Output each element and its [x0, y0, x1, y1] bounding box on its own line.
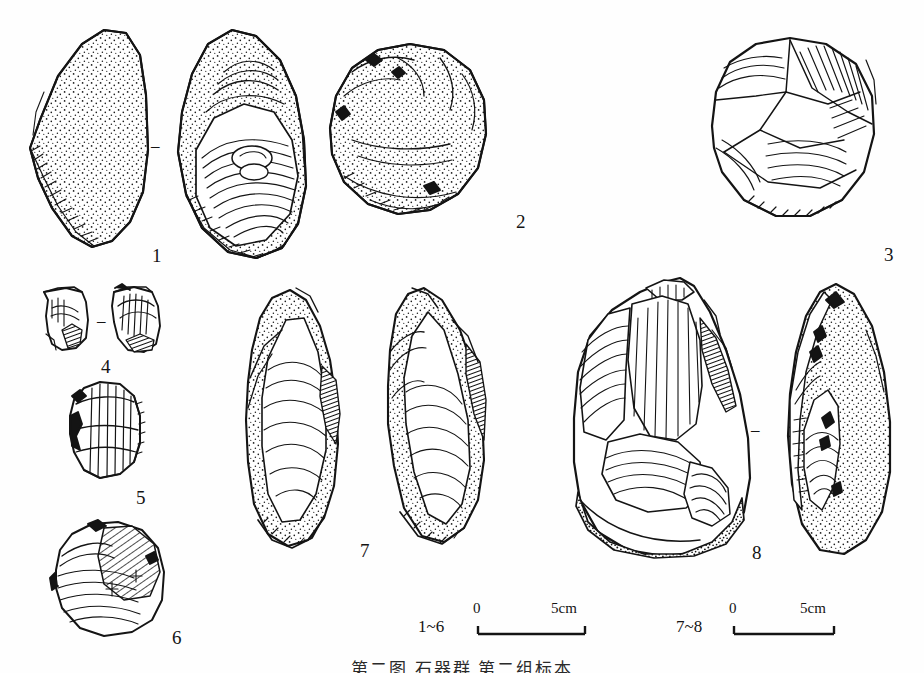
figure-number-7: 7: [360, 541, 370, 560]
artifact-7-view-a: [246, 288, 340, 548]
clipped-caption-text: 第二图 石器群 第二组标本: [0, 658, 924, 673]
figure-number-8: 8: [752, 543, 762, 562]
scale-1-6-range: 1~6: [418, 617, 444, 637]
artifact-5: [70, 382, 145, 478]
clipped-header-text: ···················: [0, 0, 924, 9]
artifact-8-view-b: [788, 284, 890, 554]
figure-number-3: 3: [884, 245, 894, 264]
artifact-3: [712, 38, 876, 216]
artifact-4-view-a: [44, 287, 88, 350]
figure-number-6: 6: [172, 628, 182, 647]
scale-1-6-zero: 0: [473, 600, 481, 617]
artifact-drawings: [0, 0, 924, 673]
artifact-7-view-b: [388, 288, 486, 544]
scale-7-8-max: 5cm: [800, 600, 826, 617]
view-separator-artifact-4: –: [97, 311, 106, 331]
scale-7-8-zero: 0: [729, 600, 737, 617]
artifact-6: [50, 520, 164, 636]
clipped-header-glyphs: ···················: [0, 0, 924, 7]
figure-number-5: 5: [136, 488, 146, 507]
artifact-2: [330, 44, 486, 214]
view-separator-artifact-8: –: [751, 420, 760, 440]
view-separator-artifact-1: –: [151, 136, 160, 156]
clipped-caption-glyphs: 第二图 石器群 第二组标本: [0, 658, 924, 673]
figure-number-2: 2: [516, 212, 526, 231]
figure-number-4: 4: [101, 357, 111, 376]
artifact-4-view-b: [112, 284, 160, 352]
scale-1-6-max: 5cm: [551, 600, 577, 617]
scale-bar-group: [478, 626, 834, 634]
artifact-1-view-b: [178, 30, 306, 258]
lithic-plate: 1 2 3 4 5 6 7 8 – – – 1~6 0 5cm 7~8 0 5c…: [0, 0, 924, 673]
scale-7-8-range: 7~8: [676, 617, 702, 637]
figure-number-1: 1: [152, 246, 162, 265]
artifact-8-view-a: [574, 278, 750, 558]
artifact-1-view-a: [30, 30, 148, 247]
